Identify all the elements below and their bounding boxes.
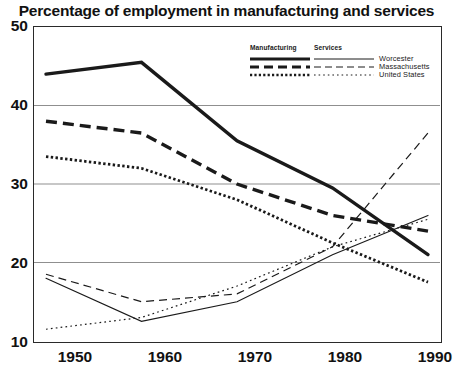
y-axis-label-40: 40 [0, 96, 28, 114]
series-line-services-massachusetts [46, 133, 428, 302]
data-series-group [46, 62, 428, 329]
legend-header-manufacturing: Manufacturing [250, 44, 297, 51]
legend-header-services: Services [314, 44, 342, 51]
series-line-services-worcester [46, 215, 428, 321]
y-axis-label-20: 20 [0, 254, 28, 272]
x-axis-label-1980: 1980 [315, 348, 375, 366]
series-line-services-united-states [46, 219, 428, 329]
series-line-manufacturing-united-states [46, 157, 428, 283]
series-line-manufacturing-worcester [46, 62, 428, 254]
chart-figure: Percentage of employment in manufacturin… [0, 0, 453, 379]
y-axis-label-50: 50 [0, 17, 28, 35]
y-axis-label-30: 30 [0, 175, 28, 193]
x-axis-label-1960: 1960 [135, 348, 195, 366]
legend-label-united-states: United States [379, 70, 425, 79]
y-axis-label-10: 10 [0, 333, 28, 351]
chart-legend: Manufacturing Services Worcester Massach… [248, 44, 423, 84]
x-axis-label-1990: 1990 [405, 348, 453, 366]
legend-swatches [248, 54, 376, 82]
x-axis-label-1970: 1970 [225, 348, 285, 366]
chart-title: Percentage of employment in manufacturin… [0, 2, 453, 20]
x-axis-label-1950: 1950 [45, 348, 105, 366]
